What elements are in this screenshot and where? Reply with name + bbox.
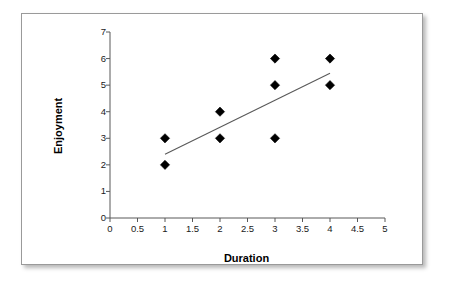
y-tick-label: 5 (86, 79, 106, 90)
x-tick-label: 0 (95, 223, 125, 234)
y-tick-label: 4 (86, 106, 106, 117)
x-tick-label: 0.5 (123, 223, 153, 234)
y-tick-label: 2 (86, 159, 106, 170)
x-tick-label: 1 (150, 223, 180, 234)
y-tick-label: 3 (86, 132, 106, 143)
screenshot-root: 00.511.522.533.544.5501234567 Duration E… (0, 0, 455, 295)
x-tick-label: 1.5 (178, 223, 208, 234)
x-tick-label: 3.5 (288, 223, 318, 234)
x-tick-label: 4.5 (343, 223, 373, 234)
y-tick-label: 0 (86, 212, 106, 223)
y-tick-label: 7 (86, 26, 106, 37)
x-axis-title-text: Duration (224, 252, 269, 264)
x-axis-title: Duration (0, 252, 455, 264)
y-tick-label: 6 (86, 53, 106, 64)
y-tick-label: 1 (86, 185, 106, 196)
x-tick-label: 4 (315, 223, 345, 234)
x-tick-label: 5 (370, 223, 400, 234)
x-tick-label: 2.5 (233, 223, 263, 234)
y-axis-title: Enjoyment (52, 98, 64, 154)
x-tick-label: 3 (260, 223, 290, 234)
x-tick-label: 2 (205, 223, 235, 234)
